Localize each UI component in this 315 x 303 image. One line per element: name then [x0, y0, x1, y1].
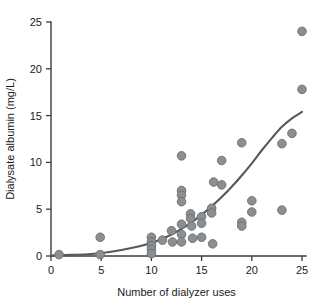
data-point: [217, 181, 226, 190]
data-point: [177, 238, 186, 247]
data-point: [248, 208, 257, 217]
y-tick-label: 5: [36, 203, 42, 215]
fitted-curve: [51, 112, 302, 256]
data-point: [147, 249, 156, 258]
fit-curve-group: [51, 112, 302, 256]
data-point: [187, 222, 196, 231]
data-point: [197, 219, 206, 228]
y-tick-label: 25: [30, 16, 42, 28]
data-point: [288, 129, 297, 138]
x-axis-tick-labels: 0510152025: [48, 264, 308, 276]
y-tick-label: 20: [30, 63, 42, 75]
x-tick-label: 5: [98, 264, 104, 276]
data-point: [177, 152, 186, 161]
scatter-chart: 0510152025 0510152025 Number of dialyzer…: [0, 0, 315, 303]
y-tick-label: 10: [30, 156, 42, 168]
data-point: [217, 156, 226, 165]
x-tick-label: 25: [296, 264, 308, 276]
chart-canvas: 0510152025 0510152025 Number of dialyzer…: [0, 0, 315, 303]
data-point: [158, 236, 167, 245]
data-point: [298, 85, 307, 94]
x-axis-title: Number of dialyzer uses: [117, 286, 236, 298]
axes-group: [46, 22, 306, 261]
x-tick-label: 15: [195, 264, 207, 276]
data-point: [237, 138, 246, 147]
data-point: [248, 196, 257, 205]
x-axis-ticks: [51, 256, 302, 261]
data-point: [188, 234, 197, 243]
data-point: [278, 139, 287, 148]
x-tick-label: 0: [48, 264, 54, 276]
data-point: [208, 240, 217, 249]
data-point: [168, 238, 177, 247]
data-point: [177, 197, 186, 206]
y-tick-label: 15: [30, 110, 42, 122]
data-point: [298, 27, 307, 36]
data-point: [197, 233, 206, 242]
data-point: [278, 206, 287, 215]
data-point: [96, 233, 105, 242]
x-tick-label: 20: [246, 264, 258, 276]
y-axis-ticks: [46, 22, 51, 256]
data-point: [96, 250, 105, 259]
data-point: [167, 226, 176, 235]
data-point: [55, 250, 64, 259]
y-axis-title: Dialysate albumin (mg/L): [4, 78, 16, 200]
data-point: [237, 222, 246, 231]
y-tick-label: 0: [36, 250, 42, 262]
x-tick-label: 10: [145, 264, 157, 276]
y-axis-tick-labels: 0510152025: [30, 16, 42, 262]
data-point: [209, 178, 218, 187]
data-point: [177, 220, 186, 229]
data-point: [207, 209, 216, 218]
